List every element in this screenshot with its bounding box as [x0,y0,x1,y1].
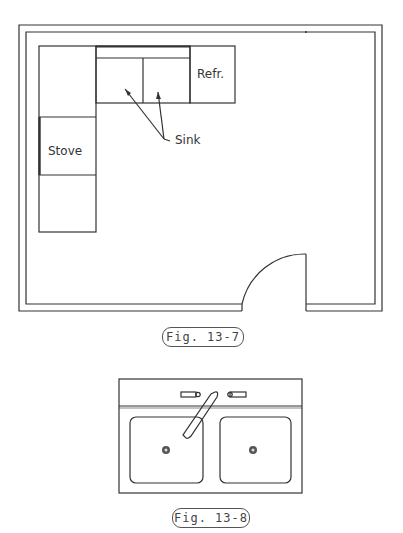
stove-label: Stove [48,144,82,158]
left-cabinets [39,46,96,232]
sink-label: Sink [175,133,201,147]
figure-caption-13-8: Fig. 13-8 [172,508,250,528]
refrigerator-label: Refr. [197,67,224,81]
door-swing-arc [242,254,306,304]
left-handle [181,392,196,397]
faucet-spout [183,392,218,438]
sink-detail-drawing [119,379,302,493]
figure-caption-13-7: Fig. 13-7 [162,327,244,347]
